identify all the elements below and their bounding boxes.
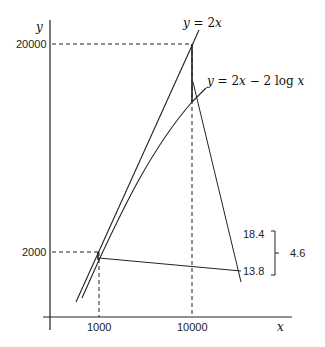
y-axis-label: y bbox=[35, 20, 43, 34]
x-axis-label: x bbox=[277, 320, 284, 334]
leader-upper bbox=[193, 82, 241, 282]
x-tick-10000: 10000 bbox=[177, 321, 208, 333]
difference-bracket bbox=[271, 231, 279, 275]
callout-upper-value: 18.4 bbox=[243, 228, 264, 240]
svg-text:y = 2x: y = 2x bbox=[182, 16, 222, 30]
label-log: y = 2x − 2 log x bbox=[206, 74, 305, 88]
label-linear: y = 2x bbox=[182, 16, 222, 30]
svg-text:y = 2x − 2 log x: y = 2x − 2 log x bbox=[206, 74, 305, 88]
log-approximation-diagram: y x 20000 2000 1000 10000 y = 2x y = 2x … bbox=[0, 0, 325, 347]
y-tick-2000: 2000 bbox=[22, 246, 46, 258]
callout-lower-value: 13.8 bbox=[243, 265, 264, 277]
difference-value: 4.6 bbox=[290, 247, 305, 259]
leader-lower bbox=[99, 258, 241, 271]
x-tick-1000: 1000 bbox=[87, 321, 111, 333]
y-tick-20000: 20000 bbox=[16, 38, 47, 50]
